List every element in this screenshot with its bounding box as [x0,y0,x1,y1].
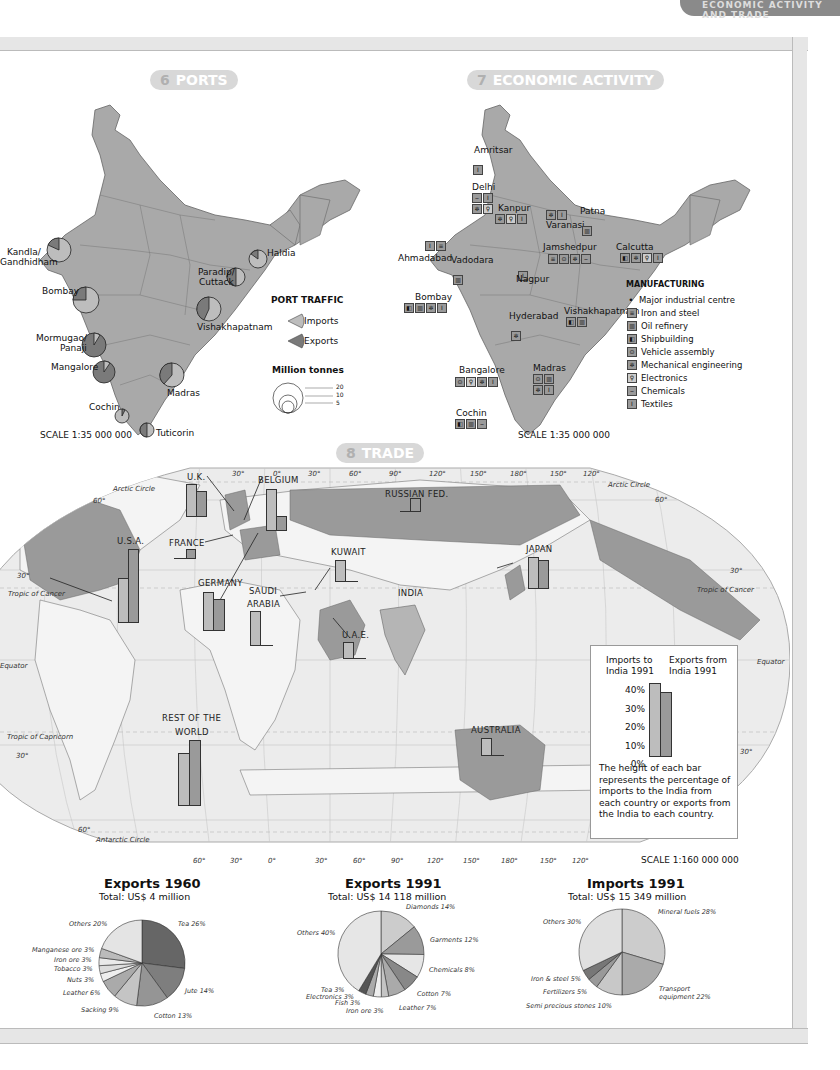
port-pie-madras [160,363,184,387]
lon-top-120w: 120° [583,470,600,478]
mechanical-engineering-icon: ✲ [472,204,482,214]
kuwait-imports-bar [335,560,346,582]
lon-bottom-120e: 120° [427,857,444,865]
city-delhi: Delhi [472,182,495,192]
exports-heading-line2: India 1991 [669,666,727,677]
city-cochin: Cochin [456,408,487,418]
port-label-tuticorin: Tuticorin [156,428,194,438]
legend-shipbuilding: ◧Shipbuilding [627,334,694,344]
saudi-arabia-exports-zero [261,645,273,646]
legend-major-industrial-centre: •Major industrial centre [627,295,735,305]
city-jamshedpur: Jamshedpur [543,242,597,252]
exports-1960-others-label: Others 20% [69,920,107,928]
lat-30s-label: 30° [16,752,28,760]
imports-1991-semi-precious-label: Semi precious stones 10% [526,1002,612,1010]
exports-1991-garments-label: Garments 12% [430,936,479,944]
lon-bottom-120w: 120° [572,857,589,865]
city-varanasi: Varanasi [546,220,585,230]
size-value-20: 20 [336,383,344,390]
section-header-tab: ECONOMIC ACTIVITY AND TRADE [680,0,840,16]
port-label-kandla: Kandla/ [7,247,41,257]
legend-textiles: ⅠTextiles [627,399,673,409]
city-ahmadabad-icons: Ⅰ≡ [425,241,446,251]
imports-1991-others-label: Others 30% [543,918,581,926]
port-label-cuttack: Cuttack [199,277,234,287]
japan-exports-bar [538,560,549,589]
shipbuilding-icon: ◧ [455,419,465,429]
economic-title-text: ECONOMIC ACTIVITY [493,72,654,88]
trade-number: 8 [346,445,356,461]
economic-number: 7 [477,72,487,88]
exports-1991-title: Exports 1991 [345,876,442,891]
mechanical-engineering-icon: ✲ [570,254,580,264]
city-madras-icons: ⊙▥✲Ⅰ [533,374,555,395]
city-vadodara: Vadodara [451,255,494,265]
electronics-icon: ♀ [506,214,516,224]
imports-heading-line2: India 1991 [606,666,654,677]
textiles-icon: Ⅰ [488,377,498,387]
tropic-cancer-label-east: Tropic of Cancer [697,586,754,594]
antarctic-circle-label-west: Antarctic Circle [96,836,150,844]
lon-bottom-60e: 60° [353,857,365,865]
country-uae: U.A.E. [342,630,369,640]
legend-vehicle-assembly: ⊙Vehicle assembly [627,347,714,357]
legend-imports-heading: Imports to India 1991 [606,655,654,677]
lat-30-label-east: 30° [730,567,742,575]
exports-1960-nuts-label: Nuts 3% [67,976,94,984]
lon-top-30w: 30° [232,470,244,478]
legend-note: The height of each bar represents the pe… [599,763,731,821]
oil-refinery-icon: ▥ [582,226,592,236]
legend-exports-heading: Exports from India 1991 [669,655,727,677]
vehicle-assembly-icon: ⊙ [455,377,465,387]
legend-label: Electronics [641,373,687,383]
size-circles-icon [273,383,333,413]
city-amritsar-icons: Ⅰ [473,157,483,176]
imports-1991-mineral-fuels-label: Mineral fuels 28% [658,908,716,916]
city-patna: Patna [580,206,605,216]
exports-1960-tea-label: Tea 26% [178,920,206,928]
legend-label: Oil refinery [641,321,688,331]
city-patna-icons: ▥ [582,218,592,237]
oil-refinery-icon: ▥ [453,275,463,285]
rest-of-world-exports-bar [189,740,201,806]
port-label-gandhidham: Gandhidham [0,257,58,267]
textiles-icon: Ⅰ [544,385,554,395]
mechanical-engineering-icon: ✲ [627,360,637,370]
shipbuilding-icon: ◧ [566,317,576,327]
exports-1960-pie [97,918,187,1008]
million-tonnes-title: Million tonnes [272,365,344,375]
manufacturing-legend-title: MANUFACTURING [626,280,704,289]
lon-top-0: 0° [273,470,281,478]
city-jamshedpur-icons: ≡⊙✲⌣ [548,254,591,264]
imports-1991-pie [577,907,667,997]
city-hyderabad-icons: ✲ [511,323,521,342]
iron-and-steel-icon: ≡ [548,254,558,264]
trade-scale: SCALE 1:160 000 000 [641,855,739,865]
legend-label: Iron and steel [641,308,699,318]
saudi-arabia-imports-bar [250,611,261,646]
country-usa: U.S.A. [117,536,144,546]
france-imports-zero [174,558,186,559]
lon-top-30e: 30° [308,470,320,478]
textiles-icon: Ⅰ [437,303,447,313]
city-varanasi-icons: ✲Ⅰ [546,210,567,220]
frame-bottom-border [0,1028,808,1044]
tick-40: 40% [621,681,645,700]
exports-1960-iron-ore-label: Iron ore 3% [54,956,92,964]
city-hyderabad: Hyderabad [509,311,559,321]
economic-activity-title: 7ECONOMIC ACTIVITY [467,70,664,90]
city-bombay-icons: ◧▥✲Ⅰ [404,303,447,313]
legend-imports-label: Imports [304,316,339,326]
legend-iron-and-steel: ≡Iron and steel [627,308,699,318]
textiles-icon: Ⅰ [473,165,483,175]
mechanical-engineering-icon: ✲ [495,214,505,224]
legend-mechanical-engineering: ✲Mechanical engineering [627,360,742,370]
legend-exports-bar [660,692,672,757]
exports-1960-subtitle: Total: US$ 4 million [99,891,190,902]
lon-top-150e: 150° [470,470,487,478]
port-label-mormugao: Mormugao/ [36,333,87,343]
lat-30-label: 30° [17,572,29,580]
major-centre-dot-icon: • [627,295,635,305]
australia-imports-bar [481,738,492,756]
germany-exports-bar [213,599,225,631]
